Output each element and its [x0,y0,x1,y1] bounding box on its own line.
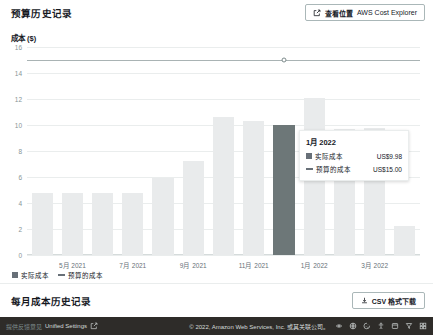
actual-cost-marker-icon [306,153,312,159]
tooltip-label-budgeted: 预算的成本 [316,164,351,174]
tooltip-row-budgeted: 预算的成本 US$15.00 [306,164,402,174]
y-axis-tick: 8 [18,148,22,155]
bar[interactable] [92,193,113,255]
footer-copyright: © 2022, Amazon Web Services, Inc. 或其关联公司… [189,322,329,331]
chart-tooltip: 1月 2022 实际成本 US$9.98 预算的成本 US$15.00 [299,130,409,181]
tooltip-label-actual: 实际成本 [315,151,343,161]
line-marker-icon [58,274,65,276]
external-link-icon [313,9,321,17]
tooltip-row-actual: 实际成本 US$9.98 [306,151,402,161]
legend-item-budgeted[interactable]: 预算的成本 [58,270,103,280]
support-icon[interactable] [405,322,413,330]
bar[interactable] [152,178,173,255]
bar-selected[interactable] [273,125,294,255]
csv-download-label: CSV 格式下载 [372,296,416,306]
y-axis-tick: 16 [15,44,22,51]
view-in-cost-explorer-button[interactable]: 查看位置 AWS Cost Explorer [305,4,425,21]
legend-label-budgeted: 预算的成本 [68,270,103,280]
tooltip-value-budgeted: US$15.00 [373,166,402,173]
section-divider [0,283,433,284]
tooltip-value-actual: US$9.98 [377,153,402,160]
y-axis-tick: 0 [18,252,22,259]
y-axis-tick: 2 [18,226,22,233]
bar[interactable] [394,226,415,255]
budgeted-cost-marker-icon [306,168,313,170]
x-axis-tick: 7月 2021 [119,260,146,270]
legend-item-actual[interactable]: 实际成本 [12,270,49,280]
privacy-icon[interactable] [335,322,343,330]
gridline [27,47,420,48]
y-axis-tick: 10 [15,122,22,129]
budgeted-cost-line [27,60,420,61]
budgeted-cost-point[interactable] [281,58,286,63]
x-axis-tick: 5月 2021 [59,260,86,270]
grid-icon[interactable] [419,322,427,330]
x-axis-tick: 11月 2021 [239,260,269,270]
chart-legend: 实际成本 预算的成本 [12,270,103,280]
tooltip-title: 1月 2022 [306,136,402,147]
footer-unified-settings-link[interactable]: Unified Settings [45,323,87,329]
footer-icon-group [335,322,427,330]
download-icon [361,297,368,304]
square-marker-icon [12,272,18,278]
terms-icon[interactable] [391,322,399,330]
budget-history-panel: 预算历史记录 查看位置 AWS Cost Explorer 成本 ($) 024… [0,0,433,335]
bar[interactable] [243,121,264,255]
language-globe-icon[interactable] [349,322,357,330]
y-axis-tick: 4 [18,200,22,207]
cost-explorer-label-cn: 查看位置 [325,8,353,18]
gridline [27,99,420,100]
legend-label-actual: 实际成本 [21,270,49,280]
x-axis-tick: 1月 2022 [301,260,328,270]
bar[interactable] [213,117,234,255]
footer-feedback-link[interactable]: 提供反馈意见 [6,322,42,331]
gridline [27,73,420,74]
gridline [27,255,420,256]
external-link-icon[interactable] [90,322,98,330]
y-axis-tick: 6 [18,174,22,181]
accessibility-icon[interactable] [377,322,385,330]
y-axis-tick: 12 [15,96,22,103]
bar[interactable] [62,193,83,255]
csv-download-button[interactable]: CSV 格式下载 [352,292,425,309]
y-axis-tick: 14 [15,70,22,77]
page-footer: 提供反馈意见 Unified Settings © 2022, Amazon W… [0,317,433,335]
x-axis-tick: 9月 2021 [180,260,207,270]
bar[interactable] [32,193,53,255]
bar[interactable] [122,193,143,255]
cost-explorer-label-en: AWS Cost Explorer [357,9,417,16]
panel-header: 预算历史记录 查看位置 AWS Cost Explorer [0,0,433,26]
cookie-icon[interactable] [363,322,371,330]
bar[interactable] [183,161,204,255]
page-title: 预算历史记录 [11,6,72,20]
x-axis-tick: 3月 2022 [361,260,388,270]
monthly-cost-history-title: 每月成本历史记录 [11,294,91,308]
